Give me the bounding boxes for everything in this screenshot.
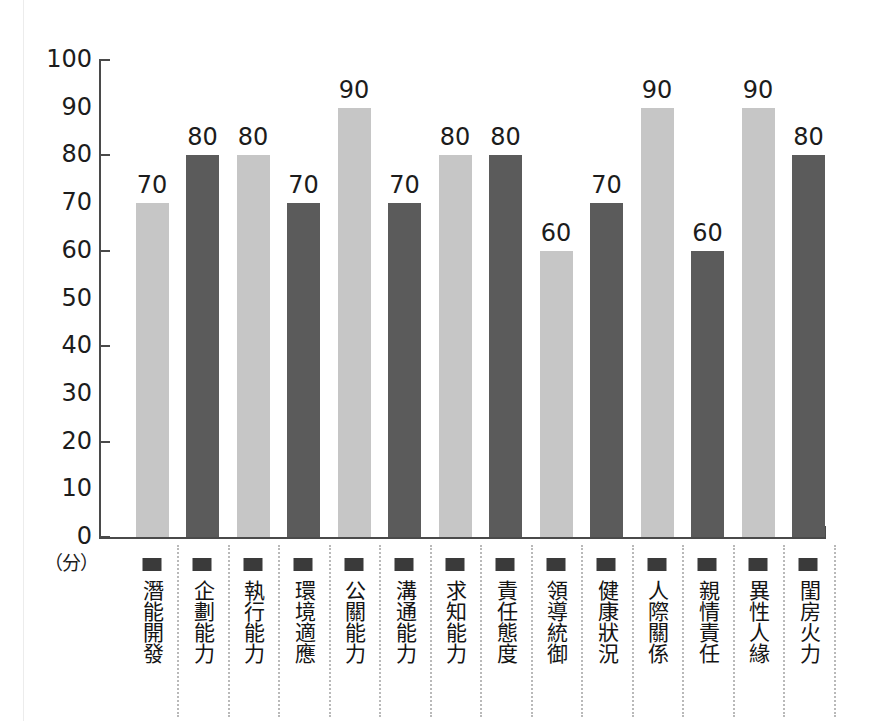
bar-value-label: 70	[122, 173, 182, 197]
bar	[489, 155, 522, 537]
bar-value-label: 80	[476, 125, 536, 149]
square-marker-icon	[698, 558, 717, 571]
category-label: 健康狀況	[595, 580, 618, 664]
bar	[742, 108, 775, 537]
bar-value-label: 90	[627, 78, 687, 102]
category-column-8[interactable]: 責任態度	[480, 541, 530, 721]
square-marker-icon	[193, 558, 212, 571]
category-label: 求知能力	[443, 580, 466, 664]
category-label: 潛能開發	[140, 580, 163, 664]
square-marker-icon	[344, 558, 363, 571]
category-column-2[interactable]: 企劃能力	[177, 541, 227, 721]
bar-value-label: 70	[375, 173, 435, 197]
square-marker-icon	[294, 558, 313, 571]
category-label: 責任態度	[494, 580, 517, 664]
category-column-6[interactable]: 溝通能力	[379, 541, 429, 721]
category-label: 人際關係	[645, 580, 668, 664]
bar	[287, 203, 320, 537]
category-column-12[interactable]: 親情責任	[682, 541, 732, 721]
square-marker-icon	[799, 558, 818, 571]
square-marker-icon	[748, 558, 767, 571]
bar	[338, 108, 371, 537]
category-column-5[interactable]: 公關能力	[329, 541, 379, 721]
square-marker-icon	[496, 558, 515, 571]
bar	[388, 203, 421, 537]
bar-value-label: 60	[678, 221, 738, 245]
category-label: 執行能力	[241, 580, 264, 664]
category-column-4[interactable]: 環境適應	[278, 541, 328, 721]
square-marker-icon	[647, 558, 666, 571]
category-column-13[interactable]: 異性人緣	[733, 541, 783, 721]
bar	[186, 155, 219, 537]
category-label: 企劃能力	[191, 580, 214, 664]
category-column-14[interactable]: 閨房火力	[783, 541, 833, 721]
bar-value-label: 70	[274, 173, 334, 197]
square-marker-icon	[597, 558, 616, 571]
bar	[237, 155, 270, 537]
category-legend-strip: 潛能開發企劃能力執行能力環境適應公關能力溝通能力求知能力責任態度領導統御健康狀況…	[99, 541, 826, 721]
category-label: 領導統御	[544, 580, 567, 664]
category-label: 公關能力	[342, 580, 365, 664]
bar-value-label: 90	[324, 78, 384, 102]
bar	[439, 155, 472, 537]
category-column-3[interactable]: 執行能力	[228, 541, 278, 721]
square-marker-icon	[142, 558, 161, 571]
bar	[641, 108, 674, 537]
bar-chart-figure: 0102030405060708090100 （分） 7080807090708…	[0, 0, 870, 721]
category-column-11[interactable]: 人際關係	[632, 541, 682, 721]
category-column-7[interactable]: 求知能力	[430, 541, 480, 721]
square-marker-icon	[395, 558, 414, 571]
square-marker-icon	[445, 558, 464, 571]
category-column-9[interactable]: 領導統御	[531, 541, 581, 721]
square-marker-icon	[243, 558, 262, 571]
category-label: 環境適應	[292, 580, 315, 664]
category-column-1[interactable]: 潛能開發	[127, 541, 177, 721]
category-label: 閨房火力	[797, 580, 820, 664]
bar	[136, 203, 169, 537]
bar	[792, 155, 825, 537]
bar	[691, 251, 724, 537]
category-column-10[interactable]: 健康狀況	[581, 541, 631, 721]
category-label: 親情責任	[696, 580, 719, 664]
square-marker-icon	[546, 558, 565, 571]
bar-value-label: 90	[728, 78, 788, 102]
bar-value-label: 80	[779, 125, 839, 149]
bar-value-label: 60	[526, 221, 586, 245]
bar-value-label: 70	[577, 173, 637, 197]
bar	[590, 203, 623, 537]
category-label: 異性人緣	[746, 580, 769, 664]
category-divider	[834, 545, 836, 717]
bar	[540, 251, 573, 537]
category-label: 溝通能力	[393, 580, 416, 664]
bar-value-label: 80	[223, 125, 283, 149]
